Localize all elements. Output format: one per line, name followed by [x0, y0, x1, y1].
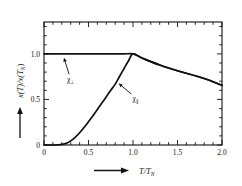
- y-tick-label: 0.5: [31, 95, 41, 104]
- x-tick-label: 1.0: [128, 148, 138, 157]
- x-tick-label: 2.0: [217, 148, 227, 157]
- figure-background: [0, 0, 242, 186]
- y-tick-label: 0: [36, 141, 40, 150]
- x-tick-label: 0.5: [84, 148, 94, 157]
- figure-container: 00.51.01.52.0 00.51.0 χ⊥χ∥ T/TN x(T)/x(T…: [0, 0, 242, 186]
- x-axis-title-sub: N: [150, 171, 155, 177]
- y-tick-label: 1.0: [31, 50, 41, 59]
- x-tick-label: 0: [42, 148, 46, 157]
- susceptibility-plot: 00.51.01.52.0 00.51.0 χ⊥χ∥ T/TN x(T)/x(T…: [0, 0, 242, 186]
- x-tick-label: 1.5: [173, 148, 183, 157]
- y-axis-title-close: ): [15, 64, 25, 67]
- y-axis-title-main: x(T)/x(T: [15, 69, 25, 99]
